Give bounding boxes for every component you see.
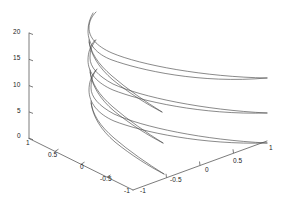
curve-6 — [91, 69, 267, 143]
z-tick-label-1: 15 — [13, 55, 20, 62]
z-tick-label-0: 20 — [13, 29, 20, 36]
x-tick-label-2: 0 — [205, 167, 209, 174]
y-tick-label-2: 0 — [80, 164, 84, 171]
z-tick-label-4: 0 — [17, 133, 21, 140]
y-tick-label-4: -1 — [124, 188, 130, 195]
x-tick-label-4: 1 — [269, 145, 273, 152]
curve-2 — [89, 12, 267, 78]
x-tick-label-0: -1 — [140, 188, 146, 195]
x-axis-line — [133, 141, 267, 190]
x-axis-ticks — [166, 149, 234, 177]
z-tick-label-3: 5 — [17, 108, 21, 115]
x-tick-label-3: 0.5 — [233, 158, 242, 165]
x-tick-label-1: -0.5 — [170, 177, 182, 184]
y-tick-label-3: -0.5 — [100, 176, 112, 183]
plot-svg — [0, 0, 291, 218]
y-tick-label-1: 0.5 — [48, 152, 57, 159]
data-curves — [88, 12, 267, 174]
curve-4 — [90, 40, 267, 113]
z-tick-label-2: 10 — [13, 82, 20, 89]
axis-lines — [29, 33, 267, 190]
matlab-figure-canvas: 20151050 10.50-0.5-1 -1-0.500.51 — [0, 0, 291, 218]
y-tick-label-0: 1 — [26, 140, 30, 147]
curve-11 — [91, 103, 164, 174]
z-axis-ticks — [29, 33, 33, 140]
